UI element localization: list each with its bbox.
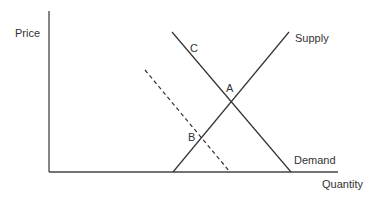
x-axis-label: Quantity [322, 178, 363, 190]
supply-label: Supply [295, 32, 329, 44]
supply-demand-diagram: Price Quantity Supply Demand C A B [0, 0, 379, 199]
point-a-label: A [226, 82, 234, 94]
point-b-label: B [188, 131, 195, 143]
y-axis-label: Price [15, 27, 40, 39]
point-c-label: C [190, 42, 198, 54]
demand-label: Demand [294, 154, 336, 166]
